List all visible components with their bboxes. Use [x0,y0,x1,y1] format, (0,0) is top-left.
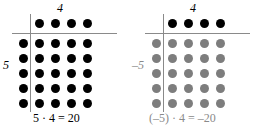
dot [83,69,92,78]
multiplication-figure-negative: 4 –5 (–5) · 4 = –20 [133,0,266,128]
main-dot-grid [15,36,95,111]
equation-label: 5 · 4 = 20 [33,112,80,125]
main-dot-grid [148,36,228,111]
dot [83,19,92,28]
dot [184,84,193,93]
dot [168,99,177,108]
side-factor-label: 5 [3,59,9,72]
dot [200,99,209,108]
dot [184,54,193,63]
dot [152,84,161,93]
horizontal-axis-line [145,33,250,34]
dot [19,99,28,108]
dot [168,39,177,48]
horizontal-axis-line [12,33,117,34]
dot [152,99,161,108]
dot [83,99,92,108]
dot [67,84,76,93]
dot [83,39,92,48]
dot [216,99,225,108]
dot [168,69,177,78]
dot-array-diagram-positive: 4 5 5 · 4 = 20 [0,0,133,128]
dot [67,19,76,28]
top-row-dots [164,17,228,30]
top-row-dots [31,17,95,30]
dot [67,54,76,63]
dot [200,39,209,48]
dot [152,54,161,63]
dot [184,19,193,28]
dot-array-diagram-negative: 4 –5 (–5) · 4 = –20 [133,0,266,128]
dot [184,39,193,48]
dot [19,69,28,78]
dot [184,69,193,78]
dot [152,69,161,78]
dot [200,84,209,93]
dot [184,99,193,108]
dot [67,39,76,48]
dot [35,99,44,108]
dot [200,54,209,63]
side-factor-label: –5 [132,59,144,72]
dot [216,19,225,28]
dot [51,54,60,63]
dot [51,84,60,93]
dot [67,99,76,108]
equation-label: (–5) · 4 = –20 [149,112,216,125]
dot [51,69,60,78]
dot [83,84,92,93]
dot [216,39,225,48]
dot [200,19,209,28]
dot [168,84,177,93]
top-factor-label: 4 [190,2,196,15]
dot [35,39,44,48]
dot [216,69,225,78]
dot [19,54,28,63]
dot [83,54,92,63]
dot [216,54,225,63]
dot [35,19,44,28]
dot [51,39,60,48]
dot [216,84,225,93]
dot [35,69,44,78]
dot [51,19,60,28]
dot [200,69,209,78]
dot [35,84,44,93]
dot [67,69,76,78]
dot [51,99,60,108]
dot [152,39,161,48]
dot [35,54,44,63]
multiplication-figure-positive: 4 5 5 · 4 = 20 [0,0,133,128]
top-factor-label: 4 [57,2,63,15]
dot [19,84,28,93]
dot [168,54,177,63]
dot [19,39,28,48]
dot [168,19,177,28]
